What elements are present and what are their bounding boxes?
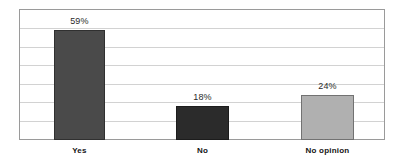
category-label-yes: Yes: [19, 146, 140, 155]
category-label-no: No: [141, 146, 264, 155]
value-label-no-opinion: 24%: [276, 81, 379, 91]
value-label-no: 18%: [151, 92, 254, 102]
bar-chart: 59% 18% 24% Yes No No opinion: [0, 0, 403, 167]
value-label-yes: 59%: [29, 16, 130, 26]
bar-no[interactable]: [176, 106, 229, 140]
bar-no-opinion[interactable]: [301, 95, 354, 140]
bar-yes[interactable]: [54, 30, 105, 140]
category-label-no-opinion: No opinion: [266, 146, 389, 155]
bars-layer: [19, 9, 385, 140]
